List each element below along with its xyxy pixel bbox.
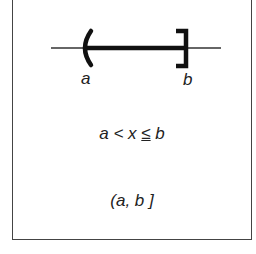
ineq-op-le: ≤ [141, 124, 150, 143]
inequality-text: a < x ≤ b [12, 124, 252, 144]
ineq-op-lt: < [113, 124, 123, 143]
ineq-left: a [99, 124, 108, 143]
ineq-var: x [128, 124, 137, 143]
interval-notation: (a, b ] [12, 191, 252, 211]
ineq-right: b [155, 124, 164, 143]
label-b: b [183, 71, 192, 88]
label-a: a [81, 70, 90, 87]
